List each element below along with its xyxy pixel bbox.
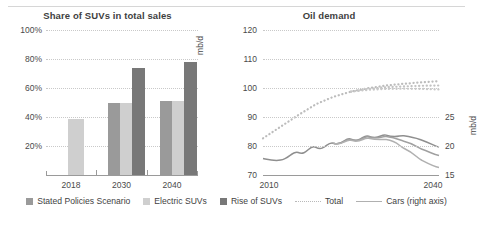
legend-item-electric-suvs: Electric SUVs (143, 196, 207, 206)
bar-2030-stated-policies (108, 103, 120, 176)
legend-item-cars-right-axis: Cars (right axis) (356, 196, 447, 206)
xtick-2010: 2010 (249, 180, 289, 190)
legend-swatch-icon (143, 198, 150, 205)
x-axis-line (46, 175, 198, 176)
gridline-80 (46, 59, 198, 60)
gridline-60 (46, 88, 198, 89)
xtick-sep-2 (147, 170, 148, 175)
legend-swatch-icon (26, 198, 33, 205)
bar-2040-stated-policies (160, 101, 172, 175)
legend-label: Electric SUVs (154, 196, 207, 206)
ytick-80: 80% (2, 54, 42, 64)
legend-label: Stated Policies Scenario (37, 196, 130, 206)
bar-2018-electric-suvs (68, 119, 84, 176)
xtick-2040-right: 2040 (413, 180, 453, 190)
ytick-100: 100 (223, 83, 257, 93)
right-chart-title: Oil demand (225, 10, 433, 21)
gridline-100 (263, 88, 439, 89)
ytick-110: 110 (223, 54, 257, 64)
panel-share-of-suvs: Share of SUVs in total sales 100% 80% 60… (0, 8, 215, 186)
ytick-90: 90 (223, 112, 257, 122)
xtick-2018: 2018 (46, 180, 96, 190)
legend-label: Cars (right axis) (386, 196, 447, 206)
bar-2040-rise-of-suvs (184, 62, 197, 175)
figure-legend: Stated Policies Scenario Electric SUVs R… (0, 196, 473, 206)
legend-item-stated-policies-scenario: Stated Policies Scenario (26, 196, 130, 206)
ytick-80: 80 (223, 141, 257, 151)
ytick-40: 40% (2, 112, 42, 122)
xtick-2040: 2040 (147, 180, 197, 190)
ytick-right-20: 20 (445, 141, 469, 151)
left-plot-area: 100% 80% 60% 40% 20% 2018 2030 2040 (46, 30, 198, 175)
series-total-upper (263, 81, 439, 138)
gridline-110 (263, 59, 439, 60)
axis-cap-start (46, 171, 47, 175)
ytick-right-15: 15 (445, 170, 469, 180)
ytick-20: 20% (2, 141, 42, 151)
bar-2030-rise-of-suvs (132, 68, 145, 175)
xtick-sep-1 (96, 170, 97, 175)
series-cars-upper (263, 135, 439, 161)
ytick-60: 60% (2, 83, 42, 93)
gridline-120 (263, 30, 439, 31)
legend-label: Total (325, 196, 343, 206)
series-cars-lower (333, 138, 439, 167)
y-axis-unit-left: mb/d (195, 36, 205, 55)
ytick-right-25: 25 (445, 112, 469, 122)
panel-oil-demand: Oil demand 120 110 100 90 80 70 25 20 15… (215, 8, 473, 186)
gridline-100 (46, 30, 198, 31)
legend-solid-line-icon (356, 201, 382, 202)
ytick-70: 70 (223, 170, 257, 180)
bar-2040-electric-suvs (172, 101, 184, 175)
right-plot-area: 120 110 100 90 80 70 25 20 15 mb/d mb/d (263, 30, 439, 175)
gridline-90 (263, 117, 439, 118)
gridline-80 (263, 146, 439, 147)
left-chart-title: Share of SUVs in total sales (0, 10, 215, 21)
legend-label: Rise of SUVs (231, 196, 282, 206)
oil-demand-lines (263, 30, 439, 175)
x-axis-line-right (263, 175, 439, 176)
bar-2030-electric-suvs (120, 103, 132, 176)
axis-cap-end (197, 171, 198, 175)
ytick-100: 100% (2, 25, 42, 35)
legend-item-rise-of-suvs: Rise of SUVs (220, 196, 282, 206)
legend-dotted-line-icon (295, 201, 321, 202)
y-axis-unit-right: mb/d (468, 116, 478, 135)
legend-swatch-icon (220, 198, 227, 205)
legend-item-total: Total (295, 196, 343, 206)
ytick-120: 120 (223, 25, 257, 35)
xtick-2030: 2030 (96, 180, 147, 190)
